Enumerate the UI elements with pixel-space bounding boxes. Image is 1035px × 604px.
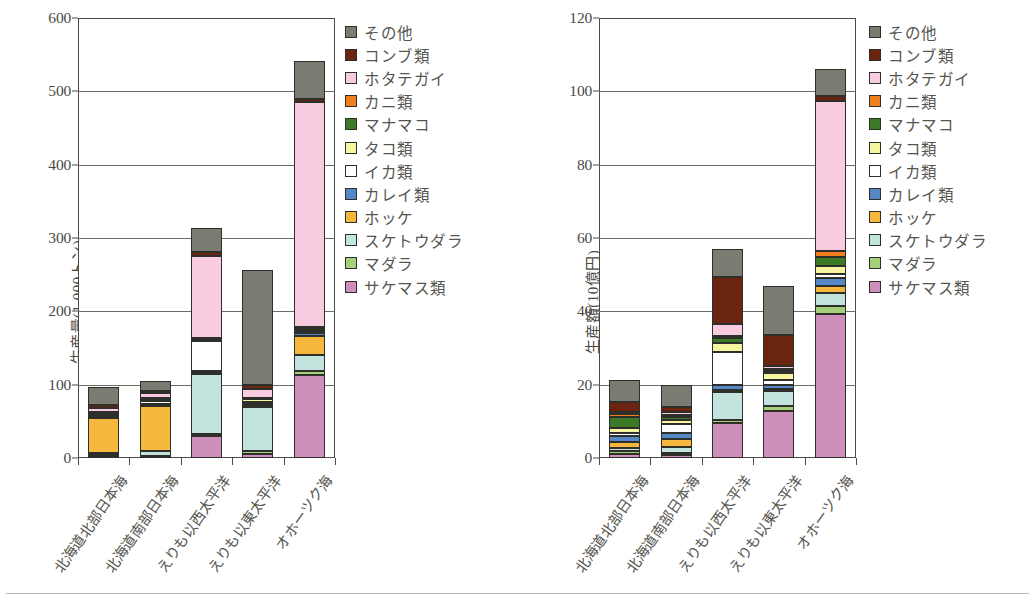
bar-segment — [191, 341, 222, 370]
legend-item[interactable]: ホタテガイ — [345, 66, 510, 89]
legend-label: ホッケ — [888, 206, 938, 228]
legend-item[interactable]: カニ類 — [869, 90, 1034, 113]
bars-right — [599, 18, 856, 458]
legend-swatch-icon — [345, 281, 357, 293]
x-tick-mark — [181, 458, 182, 465]
bar-segment — [661, 420, 692, 424]
legend-label: イカ類 — [364, 160, 414, 182]
bar-segment — [763, 385, 794, 390]
bar-segment — [661, 433, 692, 439]
bar-segment — [763, 411, 794, 458]
bar-segment — [815, 274, 846, 278]
bar-segment — [815, 101, 846, 251]
panel-production-value: 生産額(10億円) 020406080100120 北海道北部日本海北海道南部日… — [517, 0, 1034, 604]
bar-segment — [609, 412, 640, 414]
bar-segment — [609, 428, 640, 432]
legend-swatch-icon — [345, 211, 357, 223]
legend-item[interactable]: タコ類 — [345, 136, 510, 159]
y-tick-label: 40 — [577, 302, 599, 320]
bar-segment — [609, 442, 640, 448]
legend-item[interactable]: その他 — [869, 20, 1034, 43]
legend-item[interactable]: スケトウダラ — [869, 229, 1034, 252]
legend-left: その他コンブ類ホタテガイカニ類マナマコタコ類イカ類カレイ類ホッケスケトウダラマダ… — [345, 20, 510, 298]
legend-item[interactable]: マナマコ — [345, 113, 510, 136]
legend-right: その他コンブ類ホタテガイカニ類マナマコタコ類イカ類カレイ類ホッケスケトウダラマダ… — [869, 20, 1034, 298]
bar-group — [609, 18, 640, 458]
legend-item[interactable]: カレイ類 — [345, 182, 510, 205]
legend-item[interactable]: サケマス類 — [345, 275, 510, 298]
legend-label: カレイ類 — [364, 183, 430, 205]
legend-label: その他 — [888, 21, 938, 43]
bar-segment — [815, 96, 846, 100]
bar-segment — [140, 393, 171, 397]
legend-swatch-icon — [869, 49, 881, 61]
bar-segment — [140, 451, 171, 455]
bar-segment — [815, 293, 846, 306]
bar-group — [140, 18, 171, 458]
footer-divider — [6, 593, 1029, 594]
bar-segment — [712, 420, 743, 423]
legend-item[interactable]: マナマコ — [869, 113, 1034, 136]
legend-item[interactable]: タコ類 — [869, 136, 1034, 159]
legend-label: イカ類 — [888, 160, 938, 182]
legend-item[interactable]: コンブ類 — [345, 43, 510, 66]
bar-segment — [661, 455, 692, 458]
bar-segment — [661, 453, 692, 455]
legend-label: タコ類 — [364, 137, 414, 159]
bar-segment — [609, 380, 640, 402]
legend-item[interactable]: カニ類 — [345, 90, 510, 113]
legend-item[interactable]: ホッケ — [345, 206, 510, 229]
bar-segment — [88, 387, 119, 405]
x-tick-mark — [599, 458, 600, 465]
legend-label: マナマコ — [888, 113, 954, 135]
legend-item[interactable]: その他 — [345, 20, 510, 43]
y-tick-label: 400 — [48, 156, 78, 174]
legend-swatch-icon — [345, 165, 357, 177]
legend-swatch-icon — [345, 118, 357, 130]
legend-item[interactable]: ホタテガイ — [869, 66, 1034, 89]
bar-segment — [815, 278, 846, 286]
x-tick-mark — [78, 458, 79, 465]
bar-segment — [242, 407, 273, 451]
legend-label: スケトウダラ — [888, 229, 988, 251]
legend-label: サケマス類 — [888, 276, 971, 298]
bar-segment — [763, 391, 794, 406]
bar-segment — [294, 336, 325, 355]
legend-item[interactable]: マダラ — [345, 252, 510, 275]
bar-segment — [763, 371, 794, 373]
bar-segment — [294, 99, 325, 102]
legend-swatch-icon — [869, 118, 881, 130]
bar-segment — [88, 418, 119, 453]
legend-swatch-icon — [345, 142, 357, 154]
legend-item[interactable]: イカ類 — [345, 159, 510, 182]
bar-segment — [763, 406, 794, 412]
y-tick-label: 60 — [577, 229, 599, 247]
y-tick-label: 200 — [48, 302, 78, 320]
bar-group — [815, 18, 846, 458]
legend-swatch-icon — [345, 72, 357, 84]
legend-item[interactable]: イカ類 — [869, 159, 1034, 182]
legend-item[interactable]: マダラ — [869, 252, 1034, 275]
bar-segment — [294, 355, 325, 371]
bar-segment — [242, 399, 273, 401]
y-tick-label: 500 — [48, 82, 78, 100]
bar-group — [88, 18, 119, 458]
y-tick-label: 120 — [569, 9, 599, 27]
legend-label: ホタテガイ — [364, 67, 447, 89]
x-tick-mark — [335, 458, 336, 465]
bar-group — [242, 18, 273, 458]
figure-two-panel-stacked-bar-charts: 生産量(1,000トン) 0100200300400500600 北海道北部日本… — [0, 0, 1035, 604]
legend-label: カレイ類 — [888, 183, 954, 205]
bar-segment — [661, 447, 692, 453]
bars-left — [78, 18, 335, 458]
legend-swatch-icon — [869, 281, 881, 293]
bar-group — [763, 18, 794, 458]
legend-item[interactable]: コンブ類 — [869, 43, 1034, 66]
legend-label: タコ類 — [888, 137, 938, 159]
legend-item[interactable]: カレイ類 — [869, 182, 1034, 205]
legend-swatch-icon — [869, 188, 881, 200]
bar-segment — [815, 69, 846, 97]
legend-item[interactable]: サケマス類 — [869, 275, 1034, 298]
legend-item[interactable]: スケトウダラ — [345, 229, 510, 252]
legend-item[interactable]: ホッケ — [869, 206, 1034, 229]
